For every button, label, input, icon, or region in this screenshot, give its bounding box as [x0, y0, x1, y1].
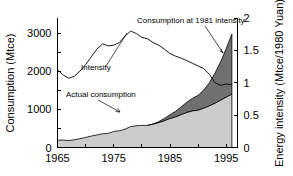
chart-svg: 1965197519851995010002000300000.511.52 C…: [0, 0, 293, 176]
annotation-consumption-at-1981-intensity: Consumption at 1981 intensity: [137, 16, 245, 25]
y-tick-label-right-0.5: 0.5: [244, 109, 259, 121]
y-tick-label-left-2000: 2000: [27, 65, 51, 77]
y-axis-right-title: Energy intensity (Mtce/1980 Yuan): [273, 0, 285, 167]
y-tick-label-left-1000: 1000: [27, 103, 51, 115]
x-tick-label-1985: 1985: [158, 152, 182, 164]
x-tick-label-1975: 1975: [102, 152, 126, 164]
y-tick-label-right-1: 1: [244, 77, 250, 89]
y-tick-label-right-1.5: 1.5: [244, 44, 259, 56]
y-tick-label-left-0: 0: [45, 142, 51, 154]
annotation-actual-consumption: Actual consumption: [66, 90, 136, 99]
y-tick-label-right-0: 0: [244, 142, 250, 154]
series-intensity-line: [58, 31, 232, 85]
chart-figure: 1965197519851995010002000300000.511.52 C…: [0, 0, 293, 176]
y-tick-label-left-3000: 3000: [27, 27, 51, 39]
leader-line-actual-consumption: [98, 100, 120, 112]
x-tick-label-1995: 1995: [214, 152, 238, 164]
y-axis-left-title: Consumption (Mtce): [4, 33, 16, 132]
annotation-intensity: Intensity: [81, 63, 111, 72]
leader-line-1981-intensity: [205, 26, 223, 53]
leader-line-intensity: [106, 33, 127, 66]
